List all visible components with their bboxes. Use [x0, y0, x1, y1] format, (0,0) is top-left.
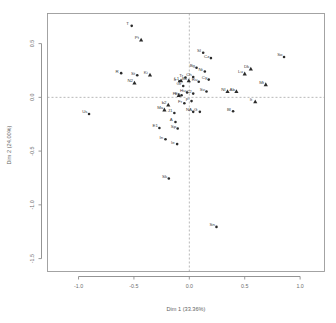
data-point-label: NA — [186, 107, 192, 112]
data-point-label: Cz — [204, 54, 209, 59]
data-point-marker — [234, 89, 238, 93]
data-point-label: R — [115, 69, 118, 74]
data-point-label: T — [126, 21, 129, 26]
data-point-label: A — [170, 117, 173, 122]
data-point-marker — [202, 51, 205, 54]
data-point-marker — [176, 127, 179, 130]
data-point-label: Ma — [157, 105, 164, 110]
data-point-label: N2 — [127, 78, 133, 83]
x-tick-label: -0.5 — [129, 283, 138, 289]
x-axis-title: Dim 1 (33.36%) — [167, 306, 206, 312]
y-tick-label: -0.5 — [29, 146, 35, 155]
data-point-label: Sk — [162, 174, 168, 179]
data-point-marker — [207, 78, 210, 81]
y-tick-label: 0.0 — [29, 94, 35, 101]
data-point-label: Mt — [259, 80, 265, 85]
data-point-label: Ie — [171, 140, 175, 145]
data-point-marker — [192, 92, 195, 95]
data-point-label: Sp — [171, 124, 177, 129]
data-point-marker — [195, 66, 198, 69]
data-point-label: P — [186, 97, 189, 102]
factor-map-figure: -1.0-0.50.00.51.0 0.50.0-0.5-1.0-1.5 TRS… — [0, 0, 336, 323]
data-point-label: Bg — [190, 63, 196, 68]
data-point-marker — [199, 111, 202, 114]
data-point-label: Lu — [238, 69, 243, 74]
data-point-marker — [205, 90, 208, 93]
data-point-label: E1 — [153, 123, 159, 128]
data-point-label: It — [250, 97, 253, 102]
data-point-marker — [164, 138, 167, 141]
data-point-label: Fi — [173, 91, 177, 96]
data-point-label: Dk — [244, 64, 250, 69]
data-point-label: L1 — [174, 76, 179, 81]
data-point-marker — [173, 112, 176, 115]
data-point-marker — [166, 103, 170, 107]
data-point-marker — [232, 110, 235, 113]
data-point-marker — [148, 73, 152, 77]
data-point-marker — [158, 127, 161, 130]
data-point-label: Ru — [192, 77, 198, 82]
y-tick-label: 0.5 — [29, 40, 35, 47]
data-point-marker — [253, 100, 257, 104]
x-tick-label: 0.5 — [241, 283, 248, 289]
data-point-marker — [136, 74, 139, 77]
data-points-layer: TRStUsSoCzSlBgNtCyChRuTrIrGrSvHuC2EePFrN… — [82, 21, 285, 228]
data-point-label: Nt — [198, 67, 203, 72]
data-point-label: So — [277, 52, 283, 57]
data-point-marker — [88, 113, 91, 116]
data-point-label: Sl — [197, 48, 201, 53]
x-tick-label: 0.0 — [186, 283, 193, 289]
data-point-label: G — [194, 107, 198, 112]
data-point-label: Fr — [178, 99, 183, 104]
data-point-marker — [283, 56, 286, 59]
scatter-plot-canvas: -1.0-0.50.00.51.0 0.50.0-0.5-1.0-1.5 TRS… — [0, 0, 336, 323]
x-tick-label: -1.0 — [74, 283, 83, 289]
data-point-label: Ki — [144, 70, 148, 75]
data-point-label: Us — [82, 109, 88, 114]
data-point-marker — [180, 94, 183, 97]
data-point-marker — [190, 100, 193, 103]
data-point-label: Sn — [210, 222, 216, 227]
data-point-label: Pt — [135, 35, 140, 40]
y-tick-label: -1.0 — [29, 200, 35, 209]
data-point-label: Bl — [227, 107, 231, 112]
data-point-marker — [130, 25, 133, 28]
data-point-label: Nl — [221, 87, 225, 92]
data-point-marker — [139, 38, 143, 42]
data-point-label: C2 — [186, 89, 192, 94]
y-tick-label: -1.5 — [29, 254, 35, 263]
data-point-label: St — [131, 71, 136, 76]
data-point-marker — [215, 226, 218, 229]
data-point-marker — [204, 70, 207, 73]
data-point-label: Cy — [202, 75, 208, 80]
x-tick-label: 1.0 — [296, 283, 303, 289]
data-point-marker — [210, 57, 213, 60]
data-point-label: Sv — [200, 87, 206, 92]
data-point-marker — [120, 72, 123, 75]
y-axis-title: Dim 2 (24.00%) — [6, 125, 12, 164]
data-point-label: J1 — [168, 108, 173, 113]
data-point-marker — [168, 177, 171, 180]
y-axis: 0.50.0-0.5-1.0-1.5 — [29, 40, 42, 263]
data-point-label: Ab — [230, 87, 236, 92]
x-axis: -1.0-0.50.00.51.0 — [74, 277, 304, 289]
data-point-label: In — [159, 135, 163, 140]
plot-frame — [48, 14, 325, 272]
data-point-marker — [249, 67, 253, 71]
data-point-marker — [264, 82, 268, 86]
data-point-marker — [183, 102, 186, 105]
data-point-marker — [187, 79, 191, 83]
data-point-label: Bk — [182, 76, 188, 81]
data-point-marker — [197, 80, 200, 83]
data-point-marker — [174, 121, 177, 124]
data-point-marker — [176, 143, 179, 146]
data-point-marker — [243, 72, 247, 76]
